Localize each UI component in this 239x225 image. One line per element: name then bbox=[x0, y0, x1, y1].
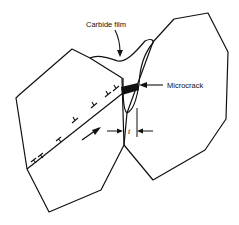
thickness-label: t bbox=[128, 127, 131, 136]
slip-direction-arrow bbox=[82, 127, 101, 140]
dislocation-symbol bbox=[91, 102, 97, 108]
right-grain bbox=[124, 13, 228, 180]
dislocation-symbol bbox=[72, 117, 78, 123]
carbide-film-pointer bbox=[115, 30, 123, 57]
microcrack-pointer bbox=[139, 82, 163, 88]
carbide-film-label: Carbide film bbox=[86, 20, 126, 29]
dislocation-symbol bbox=[31, 158, 36, 163]
microcrack-label: Microcrack bbox=[167, 81, 204, 90]
carbide-microcrack-diagram: t Carbide film Microcrack bbox=[0, 0, 239, 225]
dislocation-symbol bbox=[105, 91, 111, 97]
dislocation-symbol bbox=[56, 137, 61, 142]
dislocation-symbol bbox=[38, 153, 43, 158]
microcrack bbox=[121, 83, 139, 95]
dislocation-pileup bbox=[31, 85, 119, 163]
dislocation-symbol bbox=[113, 85, 119, 91]
